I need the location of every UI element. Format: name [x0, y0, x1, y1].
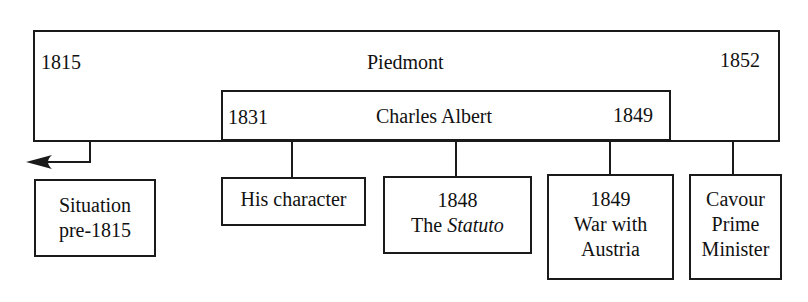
node-line: Austria — [581, 237, 640, 262]
connector-his-character — [291, 141, 293, 178]
node-situation-pre-1815: Situation pre-1815 — [34, 179, 156, 257]
node-1848-statuto: 1848 The Statuto — [383, 176, 532, 254]
node-line: 1848 — [438, 188, 478, 213]
statuto-prefix: The — [411, 214, 447, 236]
arrow-left-icon — [26, 154, 54, 170]
piedmont-start-year: 1815 — [41, 50, 81, 74]
node-line: pre-1815 — [59, 218, 131, 243]
piedmont-end-year: 1852 — [720, 48, 760, 72]
node-line: 1849 — [591, 187, 631, 212]
arrow-stem-vertical — [89, 141, 91, 163]
node-cavour-prime-minister: Cavour Prime Minister — [689, 174, 782, 280]
connector-war-austria — [609, 140, 611, 175]
charles-albert-start-year: 1831 — [228, 105, 268, 129]
charles-albert-label: Charles Albert — [376, 104, 492, 128]
connector-statuto — [455, 141, 457, 177]
node-line: His character — [240, 187, 346, 212]
charles-albert-end-year: 1849 — [613, 103, 653, 127]
node-1849-war-with-austria: 1849 War with Austria — [547, 174, 674, 280]
node-his-character: His character — [221, 177, 366, 226]
node-line: Cavour — [706, 187, 765, 212]
connector-cavour — [732, 140, 734, 175]
statuto-italic: Statuto — [447, 214, 504, 236]
node-line: Minister — [702, 237, 770, 262]
piedmont-label: Piedmont — [367, 50, 444, 74]
node-line: The Statuto — [411, 213, 504, 238]
node-line: Situation — [59, 193, 131, 218]
node-line: War with — [574, 212, 647, 237]
node-line: Prime — [712, 212, 760, 237]
